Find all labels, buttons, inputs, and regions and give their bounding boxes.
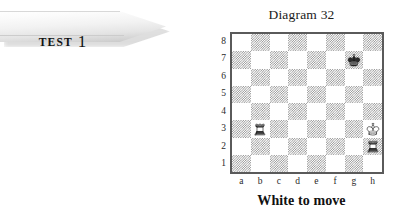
rank-label-5: 5: [214, 88, 226, 98]
rank-label-4: 4: [214, 106, 226, 116]
white-king-piece[interactable]: [365, 121, 381, 137]
square-h6[interactable]: [363, 69, 382, 86]
square-d1[interactable]: [288, 155, 307, 172]
square-a7[interactable]: [232, 51, 251, 68]
square-b5[interactable]: [251, 86, 270, 103]
chess-diagram: Diagram 32 8 7 6 5 4 3 2 1: [210, 0, 405, 218]
square-f1[interactable]: [326, 155, 345, 172]
square-e2[interactable]: [307, 138, 326, 155]
black-king-piece[interactable]: [346, 52, 362, 68]
square-d5[interactable]: [288, 86, 307, 103]
test-banner: TEST 1: [0, 11, 166, 42]
square-a1[interactable]: [232, 155, 251, 172]
file-label-a: a: [232, 176, 251, 186]
file-label-d: d: [288, 176, 307, 186]
square-c1[interactable]: [270, 155, 289, 172]
square-g5[interactable]: [345, 86, 364, 103]
square-e8[interactable]: [307, 34, 326, 51]
square-h8[interactable]: [363, 34, 382, 51]
square-h2[interactable]: [363, 138, 382, 155]
file-label-g: g: [345, 176, 364, 186]
square-e4[interactable]: [307, 103, 326, 120]
square-g1[interactable]: [345, 155, 364, 172]
file-label-e: e: [307, 176, 326, 186]
square-h5[interactable]: [363, 86, 382, 103]
square-g3[interactable]: [345, 120, 364, 137]
square-a5[interactable]: [232, 86, 251, 103]
square-e3[interactable]: [307, 120, 326, 137]
square-b6[interactable]: [251, 69, 270, 86]
square-b3[interactable]: [251, 120, 270, 137]
square-b8[interactable]: [251, 34, 270, 51]
square-h3[interactable]: [363, 120, 382, 137]
diagram-title: Diagram 32: [210, 7, 393, 23]
banner-number: 1: [78, 32, 87, 52]
square-e6[interactable]: [307, 69, 326, 86]
diagram-caption: White to move: [210, 193, 393, 209]
square-b2[interactable]: [251, 138, 270, 155]
square-g4[interactable]: [345, 103, 364, 120]
square-c3[interactable]: [270, 120, 289, 137]
rank-label-8: 8: [214, 36, 226, 46]
square-c7[interactable]: [270, 51, 289, 68]
square-f3[interactable]: [326, 120, 345, 137]
square-a8[interactable]: [232, 34, 251, 51]
square-f8[interactable]: [326, 34, 345, 51]
square-h1[interactable]: [363, 155, 382, 172]
square-g2[interactable]: [345, 138, 364, 155]
square-c8[interactable]: [270, 34, 289, 51]
white-rook-piece-b3[interactable]: [252, 121, 268, 137]
rank-label-6: 6: [214, 71, 226, 81]
banner-label: TEST: [39, 36, 73, 48]
square-g6[interactable]: [345, 69, 364, 86]
rank-label-7: 7: [214, 53, 226, 63]
square-f6[interactable]: [326, 69, 345, 86]
rank-label-2: 2: [214, 141, 226, 151]
square-f5[interactable]: [326, 86, 345, 103]
file-label-f: f: [326, 176, 345, 186]
file-label-h: h: [363, 176, 382, 186]
chessboard: 8 7 6 5 4 3 2 1: [230, 32, 384, 174]
square-a3[interactable]: [232, 120, 251, 137]
square-g7[interactable]: [345, 51, 364, 68]
square-d6[interactable]: [288, 69, 307, 86]
square-h4[interactable]: [363, 103, 382, 120]
square-c4[interactable]: [270, 103, 289, 120]
square-e1[interactable]: [307, 155, 326, 172]
square-d2[interactable]: [288, 138, 307, 155]
rank-label-3: 3: [214, 123, 226, 133]
square-d4[interactable]: [288, 103, 307, 120]
file-label-c: c: [270, 176, 289, 186]
square-b1[interactable]: [251, 155, 270, 172]
square-f7[interactable]: [326, 51, 345, 68]
square-d7[interactable]: [288, 51, 307, 68]
square-c6[interactable]: [270, 69, 289, 86]
square-d8[interactable]: [288, 34, 307, 51]
square-g8[interactable]: [345, 34, 364, 51]
square-a6[interactable]: [232, 69, 251, 86]
square-d3[interactable]: [288, 120, 307, 137]
square-b7[interactable]: [251, 51, 270, 68]
square-c5[interactable]: [270, 86, 289, 103]
file-labels: a b c d e f g h: [232, 176, 382, 186]
square-f4[interactable]: [326, 103, 345, 120]
file-label-b: b: [251, 176, 270, 186]
square-a4[interactable]: [232, 103, 251, 120]
banner-text: TEST 1: [0, 11, 125, 42]
square-f2[interactable]: [326, 138, 345, 155]
rank-label-1: 1: [214, 158, 226, 168]
square-h7[interactable]: [363, 51, 382, 68]
square-b4[interactable]: [251, 103, 270, 120]
square-a2[interactable]: [232, 138, 251, 155]
white-rook-piece-h2[interactable]: [365, 138, 381, 154]
square-e7[interactable]: [307, 51, 326, 68]
square-c2[interactable]: [270, 138, 289, 155]
square-e5[interactable]: [307, 86, 326, 103]
board-squares: [232, 34, 382, 172]
